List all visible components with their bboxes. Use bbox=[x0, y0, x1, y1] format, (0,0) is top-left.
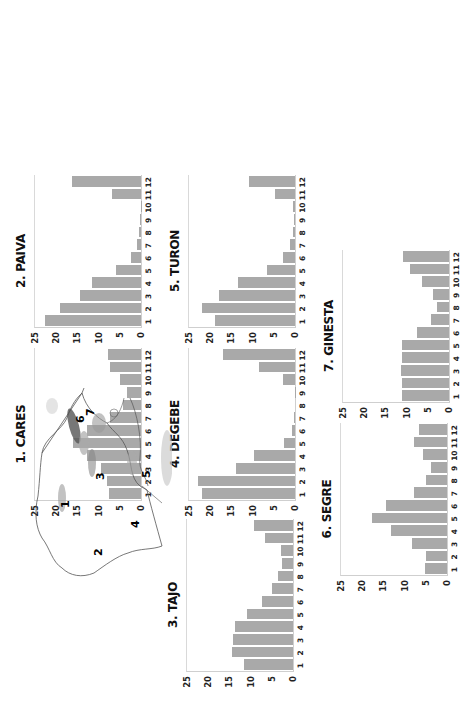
x-tick-label: 5 bbox=[296, 610, 305, 621]
x-tick-label: 5 bbox=[144, 266, 153, 277]
y-tick-label: 15 bbox=[378, 580, 388, 592]
x-tick-label: 11 bbox=[144, 190, 153, 201]
x-tick-label: 9 bbox=[296, 559, 305, 570]
x-tick-label: 4 bbox=[452, 353, 461, 364]
bar-month-4 bbox=[92, 277, 141, 288]
x-axis-ticks: 123456789101112 bbox=[298, 176, 307, 328]
x-tick-label: 12 bbox=[452, 252, 461, 263]
bar-month-11 bbox=[414, 437, 447, 448]
x-tick-label: 4 bbox=[296, 622, 305, 633]
bar-month-1 bbox=[202, 488, 295, 499]
x-tick-label: 1 bbox=[144, 316, 153, 327]
bar-month-1 bbox=[425, 563, 447, 574]
y-tick-label: 5 bbox=[269, 505, 279, 511]
y-tick-label: 20 bbox=[359, 407, 369, 419]
chart-title: 5. TURON bbox=[168, 172, 182, 350]
bars bbox=[189, 175, 295, 327]
bar-month-7 bbox=[272, 583, 293, 594]
y-tick-label: 15 bbox=[224, 676, 234, 688]
bar-month-12 bbox=[254, 520, 293, 531]
bar-chart-ginesta: 7. GINESTA 2520151050 123456789101112 bbox=[322, 247, 467, 425]
y-tick-label: 10 bbox=[402, 407, 412, 419]
bar-month-11 bbox=[275, 189, 295, 200]
bar-month-7 bbox=[294, 412, 295, 423]
x-tick-label: 10 bbox=[452, 277, 461, 288]
bar-month-12 bbox=[403, 251, 449, 262]
x-tick-label: 12 bbox=[450, 425, 459, 436]
bar-month-5 bbox=[247, 609, 293, 620]
x-tick-label: 3 bbox=[298, 464, 307, 475]
y-tick-label: 10 bbox=[94, 332, 104, 344]
bar-month-10 bbox=[283, 374, 295, 385]
x-tick-label: 11 bbox=[144, 363, 153, 374]
y-tick-label: 15 bbox=[72, 332, 82, 344]
bar-month-1 bbox=[45, 315, 141, 326]
y-tick-label: 0 bbox=[444, 407, 454, 413]
y-axis-ticks: 2520151050 bbox=[340, 578, 448, 598]
y-tick-label: 5 bbox=[267, 676, 277, 682]
x-tick-label: 10 bbox=[144, 202, 153, 213]
bar-month-11 bbox=[110, 362, 141, 373]
x-tick-label: 3 bbox=[296, 635, 305, 646]
bars bbox=[343, 250, 449, 402]
x-tick-label: 2 bbox=[450, 552, 459, 563]
x-tick-label: 9 bbox=[450, 463, 459, 474]
bar-month-11 bbox=[265, 533, 293, 544]
x-tick-label: 10 bbox=[296, 546, 305, 557]
bar-month-9 bbox=[140, 214, 141, 225]
y-tick-label: 5 bbox=[115, 332, 125, 338]
bar-month-8 bbox=[426, 475, 447, 486]
bar-month-4 bbox=[235, 621, 293, 632]
iberia-map: 1 2 3 4 5 6 7 bbox=[22, 378, 172, 588]
y-tick-label: 0 bbox=[136, 332, 146, 338]
x-tick-label: 8 bbox=[296, 572, 305, 583]
bar-month-7 bbox=[290, 239, 295, 250]
plot-area bbox=[188, 175, 296, 328]
x-tick-label: 9 bbox=[298, 388, 307, 399]
bar-month-3 bbox=[236, 463, 295, 474]
x-tick-label: 11 bbox=[298, 190, 307, 201]
bar-month-9 bbox=[282, 558, 293, 569]
bar-month-7 bbox=[431, 314, 449, 325]
y-tick-label: 25 bbox=[182, 676, 192, 688]
bar-month-2 bbox=[60, 303, 141, 314]
plot-area bbox=[340, 423, 448, 576]
x-tick-label: 7 bbox=[298, 413, 307, 424]
x-tick-label: 1 bbox=[296, 660, 305, 671]
x-tick-label: 3 bbox=[298, 291, 307, 302]
x-axis-ticks: 123456789101112 bbox=[298, 349, 307, 501]
x-tick-label: 2 bbox=[452, 379, 461, 390]
y-tick-label: 10 bbox=[248, 332, 258, 344]
bar-month-8 bbox=[139, 227, 141, 238]
bar-month-4 bbox=[238, 277, 295, 288]
y-tick-label: 20 bbox=[205, 332, 215, 344]
bar-month-11 bbox=[410, 264, 449, 275]
bar-month-3 bbox=[80, 290, 141, 301]
bar-chart-segre: 6. SEGRE 2520151050 123456789101112 bbox=[320, 420, 465, 598]
x-tick-label: 11 bbox=[298, 363, 307, 374]
bar-month-6 bbox=[131, 252, 141, 263]
x-tick-label: 4 bbox=[144, 278, 153, 289]
bars bbox=[189, 348, 295, 500]
x-tick-label: 4 bbox=[298, 451, 307, 462]
x-tick-label: 6 bbox=[144, 253, 153, 264]
x-tick-label: 3 bbox=[450, 539, 459, 550]
x-tick-label: 8 bbox=[298, 228, 307, 239]
bar-month-4 bbox=[391, 525, 447, 536]
y-tick-label: 20 bbox=[357, 580, 367, 592]
bar-month-2 bbox=[232, 647, 293, 658]
bar-month-2 bbox=[426, 551, 447, 562]
x-tick-label: 5 bbox=[452, 341, 461, 352]
x-tick-label: 4 bbox=[298, 278, 307, 289]
bar-month-2 bbox=[402, 378, 449, 389]
map-label-2: 2 bbox=[92, 548, 105, 556]
x-tick-label: 7 bbox=[144, 240, 153, 251]
x-tick-label: 7 bbox=[452, 315, 461, 326]
x-tick-label: 5 bbox=[298, 439, 307, 450]
bar-month-10 bbox=[281, 545, 293, 556]
bar-chart-paiva: 2. PAIVA 2520151050 123456789101112 bbox=[14, 172, 159, 350]
y-axis-ticks: 2520151050 bbox=[186, 674, 294, 694]
x-tick-label: 8 bbox=[452, 303, 461, 314]
x-tick-label: 8 bbox=[298, 401, 307, 412]
y-tick-label: 25 bbox=[336, 580, 346, 592]
